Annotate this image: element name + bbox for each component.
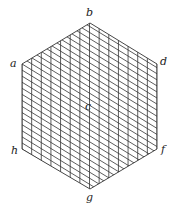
grid-line bbox=[0, 81, 175, 188]
vertex-label-b: b bbox=[86, 6, 93, 19]
vertex-label-f: f bbox=[160, 143, 167, 156]
vertex-label-h: h bbox=[11, 144, 18, 157]
grid-line bbox=[0, 38, 175, 145]
grid-line bbox=[0, 69, 175, 176]
grid-line bbox=[0, 0, 175, 6]
vertex-label-a: a bbox=[10, 57, 17, 70]
grid-line bbox=[0, 32, 175, 139]
hexagon-grid-diagram: b a d h f g c bbox=[0, 0, 175, 207]
grid-line bbox=[0, 26, 175, 133]
grid-line bbox=[0, 44, 175, 151]
center-label-c: c bbox=[85, 100, 91, 113]
vertex-label-d: d bbox=[160, 55, 167, 68]
grid-line bbox=[0, 75, 175, 182]
vertex-label-g: g bbox=[86, 191, 93, 204]
